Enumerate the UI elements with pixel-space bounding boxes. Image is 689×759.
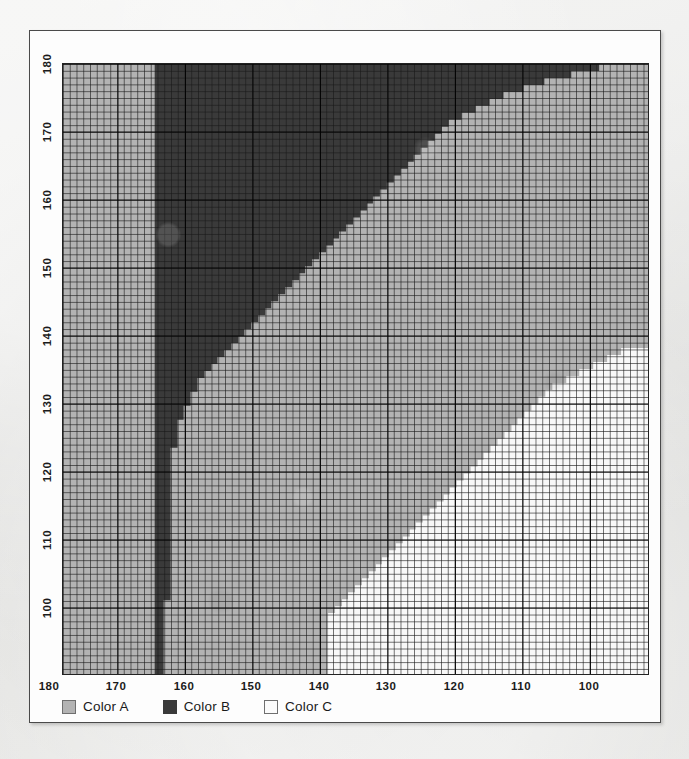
figure-page: 180 170 160 150 140 130 120 110 100 180 …: [29, 30, 661, 723]
x-tick-label: 130: [376, 680, 397, 692]
y-tick-label: 160: [41, 190, 53, 211]
x-tick-label: 180: [39, 680, 60, 692]
x-tick-label: 170: [106, 680, 127, 692]
legend-label-color-c: Color C: [285, 699, 332, 714]
x-tick-label: 160: [174, 680, 195, 692]
legend-swatch-color-c: [264, 700, 278, 714]
y-tick-label: 120: [41, 462, 53, 483]
plot-area[interactable]: [62, 63, 649, 675]
y-tick-label: 170: [41, 122, 53, 143]
x-tick-label: 120: [444, 680, 465, 692]
grid-major: [63, 64, 648, 674]
legend-swatch-color-b: [163, 700, 177, 714]
legend-item-color-c[interactable]: Color C: [264, 699, 332, 714]
y-tick-label: 180: [41, 54, 53, 75]
legend-item-color-b[interactable]: Color B: [163, 699, 230, 714]
x-tick-label: 150: [241, 680, 262, 692]
x-tick-label: 140: [309, 680, 330, 692]
legend-swatch-color-a: [62, 700, 76, 714]
y-tick-label: 140: [41, 326, 53, 347]
y-tick-label: 110: [41, 530, 53, 550]
legend-item-color-a[interactable]: Color A: [62, 699, 129, 714]
y-tick-label: 100: [41, 598, 53, 619]
x-tick-label: 110: [511, 680, 531, 692]
y-tick-label: 150: [41, 258, 53, 279]
x-tick-label: 100: [579, 680, 600, 692]
y-tick-label: 130: [41, 394, 53, 415]
legend-label-color-a: Color A: [83, 699, 129, 714]
legend-label-color-b: Color B: [184, 699, 230, 714]
legend: Color A Color B Color C: [62, 699, 332, 714]
